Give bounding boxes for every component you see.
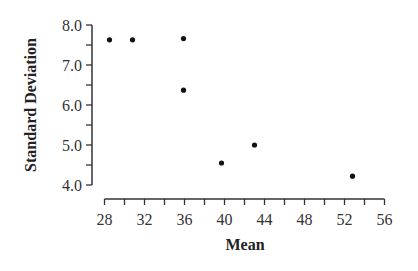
y-axis-title: Standard Deviation bbox=[22, 38, 39, 172]
x-axis: 2832364044485256 bbox=[97, 199, 393, 228]
scatter-chart: 4.05.06.07.08.0 2832364044485256 Standar… bbox=[0, 0, 418, 271]
y-axis: 4.05.06.07.08.0 bbox=[62, 17, 92, 194]
data-point bbox=[130, 37, 135, 42]
x-tick-label: 32 bbox=[137, 211, 153, 228]
x-axis-title: Mean bbox=[225, 236, 264, 253]
y-tick-label: 5.0 bbox=[62, 137, 82, 154]
data-point bbox=[252, 142, 257, 147]
x-tick-label: 48 bbox=[297, 211, 313, 228]
y-tick-label: 8.0 bbox=[62, 17, 82, 34]
data-point bbox=[181, 88, 186, 93]
y-tick-label: 6.0 bbox=[62, 97, 82, 114]
x-tick-label: 40 bbox=[217, 211, 233, 228]
x-tick-label: 36 bbox=[177, 211, 193, 228]
y-tick-label: 4.0 bbox=[62, 177, 82, 194]
x-tick-label: 56 bbox=[377, 211, 393, 228]
data-point bbox=[350, 174, 355, 179]
data-point bbox=[107, 37, 112, 42]
x-tick-label: 28 bbox=[97, 211, 113, 228]
data-points bbox=[107, 36, 355, 179]
x-tick-label: 44 bbox=[257, 211, 273, 228]
data-point bbox=[181, 36, 186, 41]
x-tick-label: 52 bbox=[337, 211, 353, 228]
y-tick-label: 7.0 bbox=[62, 57, 82, 74]
data-point bbox=[219, 160, 224, 165]
